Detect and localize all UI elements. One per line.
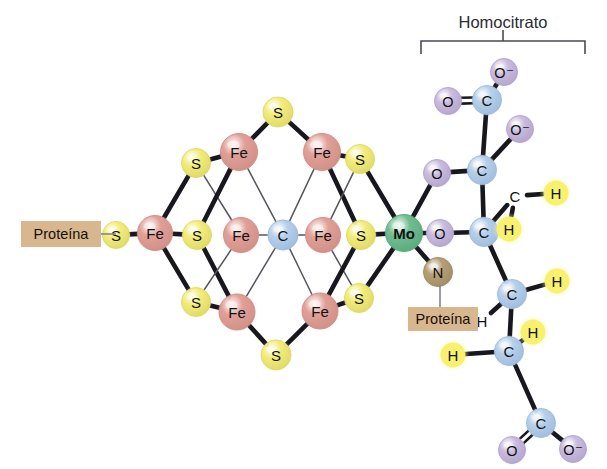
protein-right: Proteína — [408, 285, 478, 331]
protein-label-group: ProteínaProteína — [21, 221, 478, 331]
annotation-layer: Homocitrato ProteínaProteína — [0, 0, 607, 469]
protein-left-text: Proteína — [34, 226, 90, 242]
protein-right-text: Proteína — [416, 311, 472, 327]
femo-cofactor-diagram: SFeSSSFeFeFeSSCFeFeFeSSSMoNOOCCOCO⁻O⁻CHH… — [0, 0, 607, 469]
protein-left: Proteína — [21, 221, 116, 247]
homocitrate-bracket: Homocitrato — [421, 13, 585, 54]
bracket-shape — [421, 30, 585, 54]
bracket-title: Homocitrato — [459, 13, 548, 31]
